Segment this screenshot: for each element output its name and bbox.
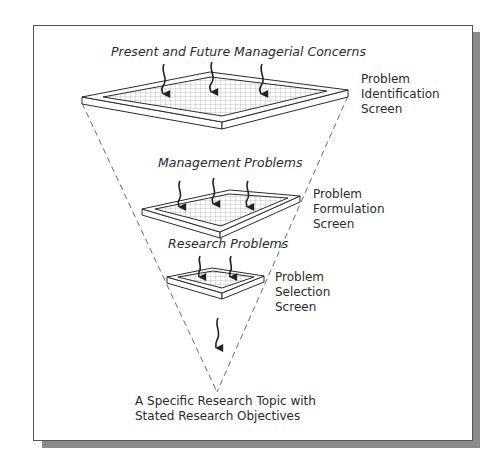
output-arrow	[216, 318, 219, 348]
label-line: Selection	[275, 285, 385, 300]
selection-screen-label: Problem Selection Screen	[275, 270, 385, 315]
label-line: Screen	[361, 102, 471, 117]
label-line: Problem	[275, 270, 385, 285]
selection-screen	[167, 268, 264, 299]
bottom-input-label: Research Problems	[168, 236, 288, 251]
middle-input-label: Management Problems	[158, 155, 302, 170]
label-line: Screen	[275, 300, 385, 315]
output-line: Stated Research Objectives	[135, 409, 316, 424]
label-line: Problem	[361, 72, 471, 87]
formulation-screen	[142, 190, 300, 238]
output-line: A Specific Research Topic with	[135, 394, 316, 409]
identification-screen-label: Problem Identification Screen	[361, 72, 471, 117]
output-label: A Specific Research Topic with Stated Re…	[135, 394, 316, 424]
top-input-label: Present and Future Managerial Concerns	[111, 44, 366, 59]
identification-screen	[82, 72, 348, 129]
label-line: Formulation	[313, 202, 423, 217]
label-line: Identification	[361, 87, 471, 102]
formulation-screen-label: Problem Formulation Screen	[313, 187, 423, 232]
label-line: Problem	[313, 187, 423, 202]
label-line: Screen	[313, 217, 423, 232]
